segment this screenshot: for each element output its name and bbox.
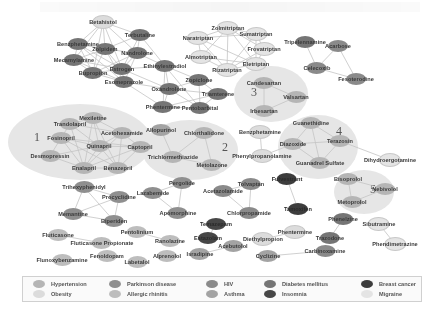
node-acebutolol[interactable]: Acebutolol [218, 243, 247, 249]
node-candesartan[interactable]: Candesartan [247, 80, 281, 86]
node-trazodone[interactable]: Trazodone [316, 235, 344, 241]
node-label: Diethylpropion [243, 236, 283, 242]
node-phendimetrazine[interactable]: Phendimetrazine [372, 241, 418, 247]
legend-item-diabetes: Diabetes mellitus [264, 280, 328, 288]
node-trihexyphenidyl[interactable]: Trihexyphenidyl [62, 184, 105, 190]
node-label: Lazabemide [137, 190, 170, 196]
node-trichlormethiazide[interactable]: Trichlormethiazide [148, 154, 198, 160]
node-label: Sibutramine [363, 221, 396, 227]
node-guanadrel[interactable]: Guanadrel Sulfate [296, 160, 345, 166]
node-benazepril[interactable]: Benazepril [104, 165, 133, 171]
node-label: Fenoldopam [90, 253, 124, 259]
node-cyclizine[interactable]: Cyclizine [256, 253, 281, 259]
node-procyclidine[interactable]: Procyclidine [102, 194, 136, 200]
legend-item-hiv: HIV [206, 280, 233, 288]
node-label: Trihexyphenidyl [62, 184, 105, 190]
node-pentobarbital[interactable]: Pentobarbital [182, 105, 218, 111]
node-sumatriptan[interactable]: Sumatriptan [239, 31, 272, 37]
node-celecoxib[interactable]: Celecoxib [304, 65, 331, 71]
node-fluticasone[interactable]: Fluticasone [42, 232, 74, 238]
node-label: Benzphetamine [239, 129, 281, 135]
node-zolpidem[interactable]: Zolpidem [92, 46, 117, 52]
node-naratriptan[interactable]: Naratriptan [183, 35, 213, 41]
node-ethinylestradiol[interactable]: Ethinylestradiol [144, 63, 187, 69]
node-label: Zolpidem [92, 46, 117, 52]
node-apomorphine[interactable]: Apomorphine [160, 210, 197, 216]
node-zopiclone[interactable]: Zopiclone [186, 77, 213, 83]
node-guanabenz[interactable]: Guanethidine [293, 120, 329, 126]
node-almotriptan[interactable]: Almotriptan [185, 54, 217, 60]
node-quinapril[interactable]: Quinapril [86, 143, 111, 149]
node-tamoxifen[interactable]: Tamoxifen [284, 206, 312, 212]
node-alprenolol[interactable]: Alprenolol [153, 253, 181, 259]
node-lazabemide[interactable]: Lazabemide [137, 190, 170, 196]
node-metoprolol[interactable]: Metoprolol [337, 199, 366, 205]
node-isradipine[interactable]: Isradipine [187, 251, 214, 257]
node-phentermine[interactable]: Phentermine [146, 104, 180, 110]
node-oxandrolone[interactable]: Oxandrolone [151, 86, 186, 92]
node-label: Eletriptan [243, 61, 269, 67]
node-memantine[interactable]: Memantine [58, 211, 88, 217]
node-tripelennamine[interactable]: Tripelennamine [284, 39, 326, 45]
legend-swatch-icon [109, 280, 121, 288]
node-mecamylamine[interactable]: Mecamylamine [54, 57, 94, 63]
node-enalapril[interactable]: Enalapril [72, 165, 96, 171]
node-phentermine2[interactable]: Phentermine [278, 229, 312, 235]
node-chlorthalidone[interactable]: Chlorthalidone [184, 130, 224, 136]
node-bisoprolol[interactable]: Bisoprolol [334, 176, 362, 182]
node-fesoterodine[interactable]: Fesoterodine [338, 76, 374, 82]
node-pergolide[interactable]: Pergolide [169, 180, 195, 186]
node-fosinopril[interactable]: Fosinopril [47, 135, 75, 141]
node-valsartan[interactable]: Valsartan [283, 94, 308, 100]
node-label: Desmopressin [30, 153, 69, 159]
node-flunoxybenzamine[interactable]: Flunoxybenzamine [36, 257, 87, 263]
node-nebivolol[interactable]: Nebivolol [372, 186, 398, 192]
node-benzphetamine2[interactable]: Benzphetamine [239, 129, 281, 135]
node-acetazolamide[interactable]: Acetazolamide [203, 188, 243, 194]
node-dihydroergotamine[interactable]: Dihydroergotamine [364, 157, 416, 163]
node-metolazone[interactable]: Metolazone [197, 162, 228, 168]
node-fenoldopam[interactable]: Fenoldopam [90, 253, 124, 259]
node-label: Fulvestrant [272, 176, 303, 182]
node-esomeprazole[interactable]: Esomeprazole [105, 79, 144, 85]
node-label: Acebutolol [218, 243, 247, 249]
legend-label: Insomnia [282, 291, 307, 297]
node-label: Celecoxib [304, 65, 331, 71]
node-biperiden[interactable]: Biperiden [101, 218, 127, 224]
node-estrogen[interactable]: Estrogen [110, 66, 135, 72]
node-fulvestrant[interactable]: Fulvestrant [272, 176, 303, 182]
legend-item-migraine: Migraine [361, 290, 402, 298]
node-allopurinol[interactable]: Allopurinol [146, 127, 176, 133]
node-ranolazine[interactable]: Ranolazine [155, 238, 185, 244]
node-labetalol[interactable]: Labetalol [124, 259, 149, 265]
node-triamterene[interactable]: Triamterene [202, 91, 234, 97]
node-estazolam[interactable]: Estazolam [194, 235, 222, 241]
node-terazosin[interactable]: Terazosin [327, 138, 353, 144]
node-nandrolone[interactable]: Nandrolone [121, 50, 153, 56]
node-phenelzine[interactable]: Phenelzine [328, 216, 358, 222]
node-desmopressin[interactable]: Desmopressin [30, 153, 69, 159]
node-irbesartan[interactable]: Irbesartan [250, 108, 278, 114]
node-betahistine[interactable]: Betahistol [89, 19, 117, 25]
node-acetohexamide[interactable]: Acetohexamide [101, 130, 143, 136]
node-diethylpropion[interactable]: Diethylpropion [243, 236, 283, 242]
legend-label: Allergic rhinitis [127, 291, 168, 297]
node-terbutaline[interactable]: Terbutaline [125, 32, 155, 38]
node-eletriptan[interactable]: Eletriptan [243, 61, 269, 67]
node-trandolapril[interactable]: Trandolapril [54, 121, 87, 127]
node-frovatriptan[interactable]: Frovatriptan [247, 46, 280, 52]
node-phenylpropanolamine[interactable]: Phenylpropanolamine [232, 153, 291, 159]
node-fluticasone_prop[interactable]: Fluticasone Propionate [71, 240, 134, 246]
node-rizatriptan[interactable]: Rizatriptan [212, 67, 241, 73]
node-label: Memantine [58, 211, 88, 217]
node-acarbose[interactable]: Acarbose [325, 43, 351, 49]
node-captopril[interactable]: Captopril [128, 144, 153, 150]
node-chlorpropamide[interactable]: Chlorpropamide [227, 210, 271, 216]
node-diazoxide[interactable]: Diazoxide [280, 141, 307, 147]
node-pentolinium[interactable]: Pentolinium [121, 229, 154, 235]
node-temazepam[interactable]: Temazepam [200, 221, 232, 227]
node-sibutramine[interactable]: Sibutramine [363, 221, 396, 227]
node-bupropion[interactable]: Bupropion [79, 70, 108, 76]
node-carbinoxamine[interactable]: Carbinoxamine [304, 248, 345, 254]
node-tolvaptan[interactable]: Tolvaptan [238, 181, 264, 187]
